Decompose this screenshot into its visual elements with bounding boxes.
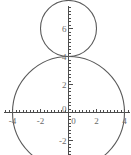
x-tick-label: -4	[9, 116, 17, 126]
graph-canvas: -4-2024 -22460	[0, 0, 130, 155]
y-axis-tick-marks	[69, 8, 73, 155]
x-tick-label: 4	[122, 116, 127, 126]
x-tick-label: -2	[37, 116, 45, 126]
origin-label: 0	[62, 104, 67, 114]
y-tick-label: 2	[62, 80, 67, 90]
y-tick-label: -2	[59, 136, 67, 146]
y-axis-tick-labels: -22460	[59, 24, 67, 146]
plot-figure: -4-2024 -22460	[0, 0, 130, 155]
y-tick-label: 6	[62, 24, 67, 34]
x-axis-tick-marks	[6, 109, 131, 113]
x-tick-label: 2	[94, 116, 99, 126]
y-tick-label: 4	[62, 52, 67, 62]
x-tick-label: 0	[71, 116, 76, 126]
